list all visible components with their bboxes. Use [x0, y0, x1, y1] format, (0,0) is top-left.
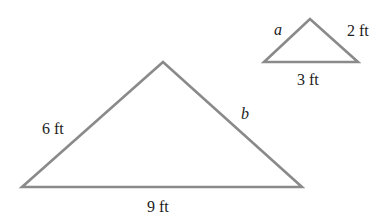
- large-right-side-label: b: [241, 106, 249, 122]
- similar-triangles-figure: [0, 0, 390, 217]
- small-right-side-label: 2 ft: [347, 23, 369, 39]
- large-left-side-label: 6 ft: [42, 121, 64, 137]
- large-triangle: [22, 62, 302, 187]
- small-base-label: 3 ft: [297, 72, 319, 88]
- large-base-label: 9 ft: [147, 199, 169, 215]
- small-left-side-label: a: [274, 22, 282, 38]
